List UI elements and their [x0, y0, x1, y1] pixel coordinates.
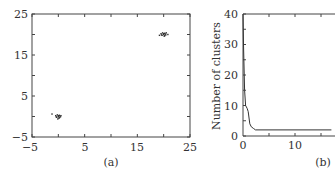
figure: 25 15 5 −5 −5 5 15 25 (a) 40 30 20 10 0 …: [0, 0, 335, 175]
scatter-point: [167, 34, 168, 35]
panel-b-line: 40 30 20 10 0 0 10 Number of clusters (b…: [210, 8, 335, 169]
x-tick-neg5: −5: [22, 141, 38, 154]
y-tick-30: 30: [224, 38, 238, 51]
scatter-point: [164, 35, 165, 36]
scatter-point: [57, 118, 58, 119]
y-axis-title: Number of clusters: [210, 22, 223, 130]
scatter-point: [159, 35, 160, 36]
x-tick-5: 5: [82, 141, 89, 154]
scatter-point: [56, 116, 57, 117]
y-tick-40: 40: [224, 8, 238, 21]
y-tick-15: 15: [14, 49, 28, 62]
y-tick-20: 20: [224, 69, 238, 82]
x-tick-15: 15: [130, 141, 144, 154]
clusters-curve: [243, 14, 331, 130]
y-tick-25: 25: [14, 8, 28, 21]
x-tick-25: 25: [183, 141, 197, 154]
scatter-point: [166, 32, 167, 33]
scatter-point: [58, 115, 59, 116]
y-tick-0: 0: [231, 130, 238, 143]
y-tick-10: 10: [224, 100, 238, 113]
panel-label-b: (b): [315, 156, 331, 169]
panel-b-ticks: [243, 14, 321, 136]
scatter-point: [55, 115, 56, 116]
scatter-point: [165, 33, 166, 34]
panel-label-a: (a): [103, 156, 118, 169]
scatter-point: [161, 34, 162, 35]
scatter-point: [160, 33, 161, 34]
scatter-point: [163, 33, 164, 34]
scatter-point: [59, 117, 60, 118]
panel-a-scatter: 25 15 5 −5 −5 5 15 25 (a): [12, 8, 197, 169]
scatter-point: [60, 115, 61, 116]
x-tick-0: 0: [240, 139, 247, 152]
panel-a-points: [51, 32, 168, 120]
scatter-point: [51, 113, 52, 114]
y-tick-5: 5: [21, 90, 28, 103]
x-tick-10: 10: [288, 139, 302, 152]
